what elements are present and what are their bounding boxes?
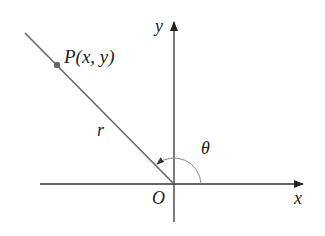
y-axis-label: y — [153, 16, 163, 36]
polar-diagram: P(x, y) r θ O x y — [0, 0, 325, 236]
angle-label: θ — [201, 138, 210, 158]
x-axis-label: x — [293, 188, 302, 208]
point-label: P(x, y) — [63, 46, 115, 68]
angle-arc — [157, 158, 201, 184]
origin-label: O — [152, 188, 165, 208]
radius-label: r — [97, 120, 105, 140]
point-p — [54, 62, 60, 68]
